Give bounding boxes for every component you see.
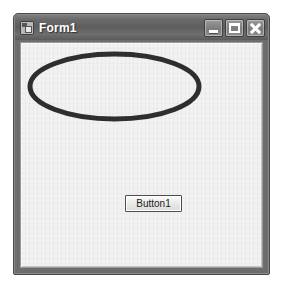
window-controls <box>204 19 265 37</box>
maximize-icon[interactable] <box>225 19 244 37</box>
minimize-icon[interactable] <box>204 19 223 37</box>
form1-window[interactable]: Form1 Button1 <box>13 13 270 275</box>
close-icon[interactable] <box>246 19 265 37</box>
window-title: Form1 <box>39 21 204 35</box>
button1[interactable]: Button1 <box>125 195 182 212</box>
form-designer-icon <box>20 21 34 35</box>
title-bar[interactable]: Form1 <box>15 15 268 40</box>
form-client-area[interactable]: Button1 <box>20 42 263 268</box>
ellipse-shape <box>25 49 204 124</box>
